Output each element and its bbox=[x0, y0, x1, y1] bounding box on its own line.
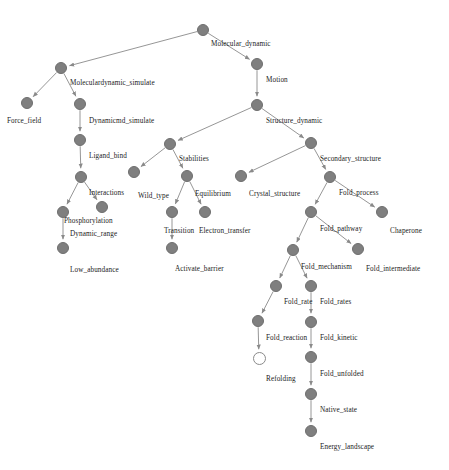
graph-node-equilibrium[interactable] bbox=[181, 170, 193, 182]
graph-node-label-motion: Motion bbox=[266, 76, 288, 84]
graph-node-label-transition: Transition bbox=[164, 227, 194, 235]
graph-edge bbox=[141, 148, 165, 167]
graph-node-label-fold_rate: Fold_rate bbox=[284, 298, 312, 306]
graph-node-label-energy_landscape: Energy_landscape bbox=[320, 443, 374, 451]
graph-node-label-fold_mechanism: Fold_mechanism bbox=[301, 263, 352, 271]
graph-node-interactions[interactable] bbox=[75, 171, 87, 183]
graph-node-label-refolding: Refolding bbox=[266, 375, 296, 383]
graph-node-label-interactions: Interactions bbox=[89, 189, 124, 197]
graph-node-label-activate_barrier: Activate_barrier bbox=[175, 265, 224, 273]
graph-node-structure_dynamic[interactable] bbox=[251, 99, 263, 111]
graph-node-label-chaperone: Chaperone bbox=[390, 227, 422, 235]
graph-edge bbox=[280, 256, 291, 278]
graph-edges-layer bbox=[0, 0, 449, 470]
graph-node-fold_reaction[interactable] bbox=[252, 315, 264, 327]
graph-node-label-phosphorylation: Phosphorylation bbox=[64, 217, 113, 225]
graph-node-label-native_state: Native_state bbox=[320, 406, 357, 414]
graph-node-label-electron_transfer: Electron_transfer bbox=[199, 227, 251, 235]
graph-node-label-fold_reaction: Fold_reaction bbox=[266, 334, 307, 342]
graph-edge bbox=[80, 146, 81, 168]
graph-node-transition[interactable] bbox=[166, 206, 178, 218]
graph-node-native_state[interactable] bbox=[305, 388, 317, 400]
graph-node-refolding[interactable] bbox=[253, 352, 266, 365]
graph-edge bbox=[67, 183, 78, 205]
graph-node-fold_rates[interactable] bbox=[305, 280, 317, 292]
graph-edge bbox=[33, 72, 57, 96]
graph-node-label-stabilities: Stabilities bbox=[179, 155, 209, 163]
graph-node-phosphorylation[interactable] bbox=[96, 201, 108, 213]
graph-node-label-fold_intermediate: Fold_intermediate bbox=[366, 265, 420, 273]
graph-node-wild_type[interactable] bbox=[128, 166, 140, 178]
graph-node-label-fold_process: Fold_process bbox=[339, 189, 379, 197]
graph-node-moleculardynamic_simulate[interactable] bbox=[55, 62, 67, 74]
graph-node-label-equilibrium: Equilibrium bbox=[195, 190, 231, 198]
graph-node-fold_intermediate[interactable] bbox=[352, 243, 364, 255]
graph-node-fold_pathway[interactable] bbox=[305, 206, 317, 218]
graph-node-label-wild_type: Wild_type bbox=[138, 192, 169, 200]
graph-node-label-molecular_dynamic: Molecular_dynamic bbox=[211, 40, 271, 48]
graph-node-dynamicmd_simulate[interactable] bbox=[74, 98, 86, 110]
graph-node-fold_process[interactable] bbox=[324, 171, 336, 183]
graph-edge bbox=[70, 32, 198, 66]
graph-node-motion[interactable] bbox=[251, 58, 263, 70]
graph-node-label-fold_pathway: Fold_pathway bbox=[320, 225, 362, 233]
graph-node-fold_unfolded[interactable] bbox=[305, 351, 317, 363]
graph-node-label-fold_rates: Fold_rates bbox=[320, 298, 351, 306]
graph-node-force_field[interactable] bbox=[21, 97, 33, 109]
graph-node-label-dynamicmd_simulate: Dynamicmd_simulate bbox=[89, 117, 154, 125]
graph-node-activate_barrier[interactable] bbox=[166, 242, 178, 254]
graph-node-label-force_field: Force_field bbox=[7, 117, 41, 125]
graph-node-stabilities[interactable] bbox=[164, 138, 176, 150]
graph-node-chaperone[interactable] bbox=[376, 206, 388, 218]
graph-edge bbox=[178, 108, 251, 141]
graph-node-label-moleculardynamic_simulate: Moleculardynamic_simulate bbox=[70, 79, 155, 87]
graph-node-label-fold_unfolded: Fold_unfolded bbox=[320, 370, 364, 378]
graph-node-label-dynamic_range: Dynamic_range bbox=[70, 230, 117, 238]
graph-edge bbox=[249, 146, 305, 173]
graph-node-crystal_structure[interactable] bbox=[235, 170, 247, 182]
graph-node-dynamic_range[interactable] bbox=[57, 206, 69, 218]
graph-node-fold_rate[interactable] bbox=[270, 280, 282, 292]
graph-edge bbox=[258, 327, 259, 349]
graph-node-fold_mechanism[interactable] bbox=[287, 244, 299, 256]
graph-node-molecular_dynamic[interactable] bbox=[197, 24, 209, 36]
graph-node-low_abundance[interactable] bbox=[57, 242, 69, 254]
graph-node-label-fold_kinetic: Fold_kinetic bbox=[320, 334, 358, 342]
graph-canvas: Molecular_dynamicMoleculardynamic_simula… bbox=[0, 0, 449, 470]
graph-edge bbox=[262, 292, 273, 314]
graph-node-fold_kinetic[interactable] bbox=[305, 316, 317, 328]
graph-node-electron_transfer[interactable] bbox=[199, 206, 211, 218]
graph-node-label-crystal_structure: Crystal_structure bbox=[249, 190, 300, 198]
graph-node-label-secondary_structure: Secondary_structure bbox=[320, 155, 381, 163]
graph-node-secondary_structure[interactable] bbox=[305, 137, 317, 149]
graph-node-label-structure_dynamic: Structure_dynamic bbox=[266, 117, 322, 125]
graph-edge bbox=[315, 182, 327, 204]
graph-node-ligand_bind[interactable] bbox=[74, 134, 86, 146]
graph-edge bbox=[297, 218, 309, 242]
graph-node-label-ligand_bind: Ligand_bind bbox=[89, 152, 127, 160]
graph-node-label-low_abundance: Low_abundance bbox=[70, 266, 119, 274]
graph-edge bbox=[175, 182, 184, 204]
graph-node-energy_landscape[interactable] bbox=[305, 425, 317, 437]
